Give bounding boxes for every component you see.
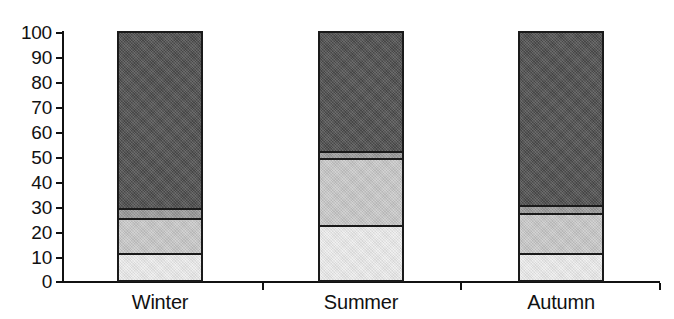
bar-segment-winter-2[interactable]	[117, 218, 203, 253]
bar-segment-summer-3[interactable]	[318, 151, 404, 158]
stacked-bar-chart: 100 90 80 70 60 50 40 30	[0, 0, 674, 319]
y-axis-tick-label: 60	[2, 123, 52, 142]
bar-winter[interactable]	[117, 31, 203, 282]
x-axis-category-label-winter: Winter	[90, 290, 230, 314]
bar-segment-summer-2[interactable]	[318, 158, 404, 225]
bar-segment-winter-3[interactable]	[117, 208, 203, 218]
y-axis-tick	[56, 281, 63, 283]
y-axis-label-wrap: 10	[0, 248, 52, 267]
bar-segment-summer-4[interactable]	[318, 31, 404, 151]
bar-segment-autumn-3[interactable]	[518, 205, 604, 213]
y-axis-tick	[56, 32, 63, 34]
y-axis-tick	[56, 257, 63, 259]
bar-segment-summer-1[interactable]	[318, 225, 404, 282]
bar-segment-autumn-4[interactable]	[518, 31, 604, 205]
bar-summer[interactable]	[318, 31, 404, 282]
plot-area: 100 90 80 70 60 50 40 30	[0, 0, 674, 319]
y-axis-tick-label: 100	[2, 23, 52, 42]
y-axis-label-wrap: 30	[0, 198, 52, 217]
y-axis-tick-label: 80	[2, 73, 52, 92]
y-axis-tick-label: 30	[2, 198, 52, 217]
bar-segment-winter-4[interactable]	[117, 31, 203, 208]
y-axis-tick	[56, 82, 63, 84]
y-axis-label-wrap: 80	[0, 73, 52, 92]
y-axis-tick-label: 10	[2, 248, 52, 267]
x-axis-tick	[262, 283, 264, 290]
y-axis-tick-label: 40	[2, 173, 52, 192]
y-axis-tick-label: 20	[2, 223, 52, 242]
x-axis-tick	[460, 283, 462, 290]
y-axis-tick-label: 90	[2, 48, 52, 67]
y-axis-tick-label: 0	[2, 272, 52, 291]
y-axis-label-wrap: 0	[0, 272, 52, 291]
y-axis-label-wrap: 70	[0, 98, 52, 117]
y-axis-label-wrap: 90	[0, 48, 52, 67]
y-axis-tick	[56, 57, 63, 59]
y-axis-tick	[56, 182, 63, 184]
y-axis-label-wrap: 40	[0, 173, 52, 192]
y-axis-tick-label: 70	[2, 98, 52, 117]
x-axis-tick	[659, 283, 661, 290]
y-axis-tick-label: 50	[2, 148, 52, 167]
bar-segment-autumn-1[interactable]	[518, 253, 604, 282]
y-axis-label-wrap: 60	[0, 123, 52, 142]
y-axis-label-wrap: 20	[0, 223, 52, 242]
y-axis-label-wrap: 100	[0, 23, 52, 42]
y-axis-tick	[56, 232, 63, 234]
bar-segment-winter-1[interactable]	[117, 253, 203, 282]
y-axis-tick	[56, 132, 63, 134]
x-axis-category-label-summer: Summer	[291, 290, 431, 314]
y-axis-label-wrap: 50	[0, 148, 52, 167]
y-axis-tick	[56, 157, 63, 159]
x-axis-category-label-autumn: Autumn	[491, 290, 631, 314]
y-axis-tick	[56, 207, 63, 209]
bar-segment-autumn-2[interactable]	[518, 213, 604, 253]
y-axis-tick	[56, 107, 63, 109]
bar-autumn[interactable]	[518, 31, 604, 282]
